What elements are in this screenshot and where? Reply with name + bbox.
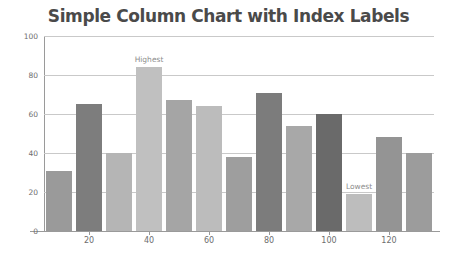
y-axis-tick-label: 20 [8,188,38,197]
x-axis-tick [389,231,390,235]
x-axis-tick [329,231,330,235]
x-axis-tick-label: 60 [189,236,229,245]
bar[interactable] [106,153,132,231]
x-axis-tick-label: 100 [309,236,349,245]
bar[interactable] [226,157,252,231]
index-label-highest: Highest [119,55,179,64]
bar[interactable] [136,67,162,231]
x-axis-tick-label: 40 [129,236,169,245]
index-label-lowest: Lowest [329,182,389,191]
y-axis-tick-label: 40 [8,149,38,158]
x-axis-tick [89,231,90,235]
bar[interactable] [196,106,222,231]
bar[interactable] [256,93,282,231]
x-axis-tick-label: 120 [369,236,409,245]
x-axis-tick-label: 80 [249,236,289,245]
bar[interactable] [76,104,102,231]
y-axis-tick-label: 80 [8,71,38,80]
chart-title: Simple Column Chart with Index Labels [0,6,457,26]
y-axis-tick-label: 60 [8,110,38,119]
bar[interactable] [46,171,72,231]
x-axis-tick [269,231,270,235]
y-axis-tick-label: 0 [8,227,38,236]
bar[interactable] [286,126,312,231]
bar[interactable] [346,194,372,231]
y-axis-tick-label: 100 [8,32,38,41]
x-axis-tick [209,231,210,235]
x-axis-tick [149,231,150,235]
column-chart: Simple Column Chart with Index Labels 02… [0,0,457,261]
x-axis-tick-label: 20 [69,236,109,245]
gridline [44,231,434,232]
bar[interactable] [166,100,192,231]
bar[interactable] [316,114,342,231]
plot-area [44,36,434,231]
bar[interactable] [406,153,432,231]
